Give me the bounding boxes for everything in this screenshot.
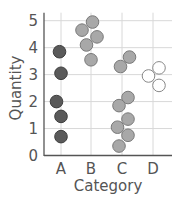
data-point-a bbox=[50, 95, 63, 108]
x-tick-labels: ABCD bbox=[56, 160, 159, 178]
y-axis-label: Quantity bbox=[7, 55, 25, 120]
data-points bbox=[50, 16, 165, 153]
x-axis-label: Category bbox=[74, 177, 143, 195]
data-point-b bbox=[76, 24, 89, 37]
y-tick-labels: 012345 bbox=[28, 12, 38, 165]
data-point-d bbox=[153, 79, 166, 92]
data-point-b bbox=[91, 31, 104, 44]
scatter-chart: 012345 ABCD Category Quantity bbox=[0, 0, 182, 204]
data-point-c bbox=[122, 129, 135, 142]
data-point-b bbox=[85, 53, 98, 66]
data-point-d bbox=[153, 62, 166, 75]
data-point-b bbox=[86, 16, 99, 29]
data-point-c bbox=[113, 99, 126, 112]
data-point-c bbox=[122, 113, 135, 126]
x-tick: D bbox=[147, 160, 159, 178]
data-point-b bbox=[80, 39, 93, 52]
y-tick: 3 bbox=[28, 66, 38, 84]
x-tick: A bbox=[56, 160, 67, 178]
x-tick: B bbox=[86, 160, 96, 178]
data-point-c bbox=[114, 60, 127, 73]
data-point-a bbox=[55, 67, 68, 80]
data-point-a bbox=[55, 110, 68, 123]
data-point-d bbox=[142, 70, 155, 83]
y-tick: 2 bbox=[28, 93, 38, 111]
y-tick: 5 bbox=[28, 12, 38, 30]
data-point-c bbox=[123, 51, 136, 64]
y-tick: 1 bbox=[28, 120, 38, 138]
x-tick: C bbox=[117, 160, 127, 178]
data-point-c bbox=[111, 121, 124, 134]
y-tick: 4 bbox=[28, 39, 38, 57]
data-point-c bbox=[113, 140, 126, 153]
data-point-a bbox=[55, 130, 68, 143]
data-point-a bbox=[53, 45, 66, 58]
y-tick: 0 bbox=[28, 147, 38, 165]
